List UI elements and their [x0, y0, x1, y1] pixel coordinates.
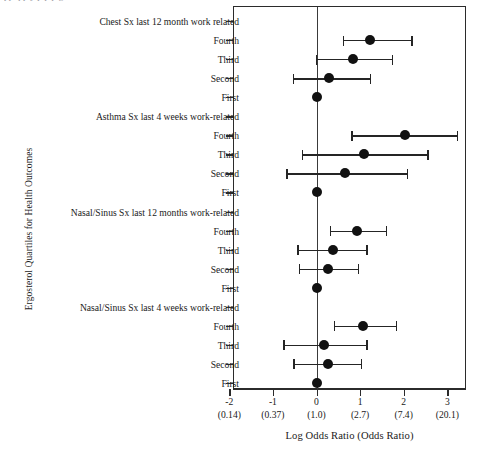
- outcome-group-label: Chest Sx last 12 month work related: [99, 12, 239, 31]
- quartile-estimate-row: Second: [0, 355, 481, 374]
- point-estimate-marker: [312, 187, 322, 197]
- point-estimate-marker: [352, 226, 362, 236]
- y-axis-tick: [226, 383, 233, 384]
- point-estimate-marker: [365, 35, 375, 45]
- outcome-group-label: Nasal/Sinus Sx last 4 weeks work-related: [80, 298, 239, 317]
- quartile-estimate-row: Third: [0, 241, 481, 260]
- forest-plot: pp q p y p p p g Ergosterol Quartiles fo…: [0, 0, 481, 458]
- ci-cap-lower: [293, 359, 294, 369]
- ci-cap-lower: [283, 340, 284, 350]
- point-estimate-marker: [348, 54, 358, 64]
- ci-cap-upper: [427, 150, 428, 160]
- ci-cap-upper: [386, 226, 387, 236]
- x-axis-tick: [273, 389, 274, 396]
- point-estimate-marker: [400, 130, 410, 140]
- point-estimate-marker: [324, 73, 334, 83]
- point-estimate-marker: [312, 378, 322, 388]
- point-estimate-marker: [319, 340, 329, 350]
- outcome-group-row: Nasal/Sinus Sx last 12 months work-relat…: [0, 203, 481, 222]
- outcome-group-row: Asthma Sx last 4 weeks work-related: [0, 107, 481, 126]
- y-axis-tick: [226, 78, 233, 79]
- y-axis-tick: [226, 250, 233, 251]
- y-axis-tick: [226, 154, 233, 155]
- quartile-estimate-row: Fourth: [0, 222, 481, 241]
- y-axis-tick: [226, 116, 233, 117]
- quartile-estimate-row: Third: [0, 145, 481, 164]
- ci-cap-lower: [297, 245, 298, 255]
- point-estimate-marker: [340, 168, 350, 178]
- quartile-estimate-row: First: [0, 88, 481, 107]
- y-axis-tick: [226, 364, 233, 365]
- y-axis-tick: [226, 21, 233, 22]
- quartile-estimate-row: First: [0, 183, 481, 202]
- x-axis-tick-label: 0: [297, 396, 337, 407]
- ci-cap-lower: [343, 36, 344, 46]
- x-axis-title: Log Odds Ratio (Odds Ratio): [233, 430, 466, 441]
- confidence-interval-line: [343, 40, 413, 41]
- outcome-group-label: Asthma Sx last 4 weeks work-related: [96, 107, 239, 126]
- point-estimate-marker: [312, 92, 322, 102]
- x-axis-tick-label: 3: [427, 396, 467, 407]
- y-axis-tick: [226, 135, 233, 136]
- y-axis-tick: [226, 97, 233, 98]
- quartile-estimate-row: First: [0, 279, 481, 298]
- ci-cap-lower: [334, 321, 335, 331]
- x-axis-tick: [317, 389, 318, 396]
- quartile-label: Second: [211, 355, 239, 374]
- quartile-estimate-row: Fourth: [0, 317, 481, 336]
- y-axis-tick: [226, 231, 233, 232]
- quartile-estimate-row: Fourth: [0, 126, 481, 145]
- ci-cap-upper: [457, 131, 458, 141]
- y-axis-tick: [226, 288, 233, 289]
- y-axis-tick: [226, 269, 233, 270]
- cropped-caption-remnant: pp q p y p p p g: [4, 0, 234, 3]
- x-axis-line: [233, 389, 466, 390]
- x-axis-tick: [229, 389, 230, 396]
- x-axis-tick: [447, 389, 448, 396]
- ci-cap-upper: [361, 359, 362, 369]
- quartile-label: Second: [211, 260, 239, 279]
- quartile-estimate-row: Second: [0, 164, 481, 183]
- y-axis-tick: [226, 345, 233, 346]
- ci-cap-lower: [293, 74, 294, 84]
- point-estimate-marker: [312, 283, 322, 293]
- ci-cap-upper: [392, 55, 393, 65]
- x-axis-tick: [360, 389, 361, 396]
- quartile-label: Second: [211, 164, 239, 183]
- x-axis-odds-ratio-label: (20.1): [419, 409, 475, 420]
- outcome-group-row: Nasal/Sinus Sx last 4 weeks work-related: [0, 298, 481, 317]
- ci-cap-upper: [396, 321, 397, 331]
- ci-cap-lower: [351, 131, 352, 141]
- quartile-estimate-row: Second: [0, 69, 481, 88]
- quartile-label: Second: [211, 69, 239, 88]
- y-axis-tick: [226, 326, 233, 327]
- x-axis-tick-label: 2: [384, 396, 424, 407]
- y-axis-tick: [226, 173, 233, 174]
- ci-cap-lower: [330, 226, 331, 236]
- x-axis-tick: [404, 389, 405, 396]
- quartile-estimate-row: Fourth: [0, 31, 481, 50]
- ci-cap-upper: [407, 169, 408, 179]
- ci-cap-upper: [411, 36, 412, 46]
- outcome-group-row: Chest Sx last 12 month work related: [0, 12, 481, 31]
- ci-cap-lower: [316, 55, 317, 65]
- y-axis-tick: [226, 307, 233, 308]
- point-estimate-marker: [323, 264, 333, 274]
- y-axis-tick: [226, 40, 233, 41]
- ci-cap-lower: [302, 150, 303, 160]
- ci-cap-upper: [366, 245, 367, 255]
- quartile-estimate-row: Second: [0, 260, 481, 279]
- ci-cap-upper: [370, 74, 371, 84]
- ci-cap-upper: [358, 264, 359, 274]
- point-estimate-marker: [359, 149, 369, 159]
- ci-cap-lower: [286, 169, 287, 179]
- x-axis-tick-label: 1: [340, 396, 380, 407]
- quartile-estimate-row: Third: [0, 50, 481, 69]
- ci-cap-lower: [299, 264, 300, 274]
- point-estimate-marker: [358, 321, 368, 331]
- y-axis-tick: [226, 212, 233, 213]
- point-estimate-marker: [328, 245, 338, 255]
- x-axis-tick-label: -1: [253, 396, 293, 407]
- y-axis-tick: [226, 192, 233, 193]
- quartile-estimate-row: Third: [0, 336, 481, 355]
